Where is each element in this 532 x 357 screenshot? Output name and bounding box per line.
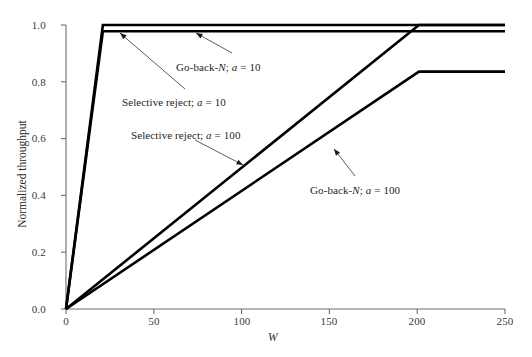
leader-go-back-n-a100-arrowhead	[334, 149, 340, 156]
annotation-text-2-suffix: = 100	[212, 129, 241, 141]
annotation-selective-reject-a100: Selective reject; a = 100	[131, 129, 241, 141]
annotation-text-2-prefix: Selective reject;	[131, 129, 206, 141]
annotation-text-0-suffix: = 10	[237, 61, 260, 73]
leader-selective-reject-a100	[195, 140, 243, 165]
xtick-label-2: 100	[228, 315, 256, 327]
leader-selective-reject-a100-arrowhead	[236, 160, 243, 165]
xtick-label-1: 50	[140, 315, 168, 327]
axis-group	[61, 25, 505, 314]
chart-figure: 0.0 0.2 0.4 0.6 0.8 1.0 0 50 100 150 200…	[0, 0, 532, 357]
xtick-label-0: 0	[52, 315, 80, 327]
x-axis-title: W	[268, 331, 278, 343]
series-line-go-back-n-a-10	[66, 31, 505, 309]
xtick-label-3: 150	[315, 315, 343, 327]
annotation-text-0-italic1: N	[218, 61, 225, 73]
ytick-label-1: 0.2	[22, 246, 46, 258]
annotation-go-back-n-a100: Go-back-N; a = 100	[310, 184, 400, 196]
annotation-go-back-n-a10: Go-back-N; a = 10	[176, 61, 261, 73]
series-line-selective-reject-a-100	[66, 25, 505, 309]
annotation-text-0-prefix: Go-back-	[176, 61, 218, 73]
ytick-label-5: 1.0	[22, 19, 46, 31]
annotation-text-3-suffix: = 100	[371, 184, 400, 196]
annotation-text-3-prefix: Go-back-	[310, 184, 352, 196]
xtick-label-5: 250	[491, 315, 519, 327]
ytick-label-0: 0.0	[22, 303, 46, 315]
xtick-label-4: 200	[403, 315, 431, 327]
annotation-text-3-italic1: N	[352, 184, 359, 196]
ytick-label-4: 0.8	[22, 76, 46, 88]
annotation-text-1-suffix: = 10	[203, 96, 226, 108]
y-axis-title: Normalized throughput	[16, 104, 28, 244]
leader-go-back-n-a10-arrowhead	[196, 33, 203, 38]
annotation-text-1-prefix: Selective reject;	[122, 96, 197, 108]
series-group	[66, 25, 505, 309]
plot-area	[0, 0, 532, 357]
annotation-selective-reject-a10: Selective reject; a = 10	[122, 96, 226, 108]
series-line-selective-reject-a-10	[66, 25, 505, 309]
